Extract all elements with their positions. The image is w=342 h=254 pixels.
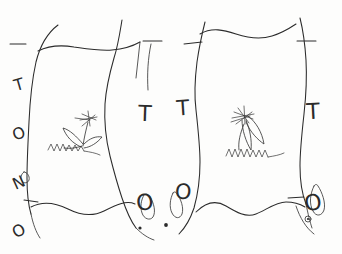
vertical-text-center-right: T O N O R A: [166, 40, 200, 254]
letter-t: T: [4, 73, 33, 96]
letter-o1: O: [165, 177, 202, 208]
letter-t: T: [165, 94, 201, 124]
letter-o2: O: [4, 218, 35, 245]
letter-t: T: [295, 96, 331, 128]
letter-n: N: [4, 170, 34, 195]
sketch-canvas: T O N O R A T O M O R A T O N O R A T O …: [0, 0, 342, 254]
plant-right: [226, 106, 284, 157]
letter-o1: O: [127, 187, 164, 220]
vertical-text-center-left: T O M O R A: [128, 40, 162, 254]
plant-left: [48, 111, 102, 155]
vertical-text-right: T O N O R A: [296, 36, 330, 254]
letter-o1: O: [294, 185, 333, 221]
vertical-text-left: T O N O R A: [6, 44, 32, 254]
t-serif-ticks: [10, 41, 316, 44]
letter-o1: O: [4, 122, 34, 146]
letter-t: T: [127, 99, 162, 130]
panel-left: [27, 20, 140, 238]
